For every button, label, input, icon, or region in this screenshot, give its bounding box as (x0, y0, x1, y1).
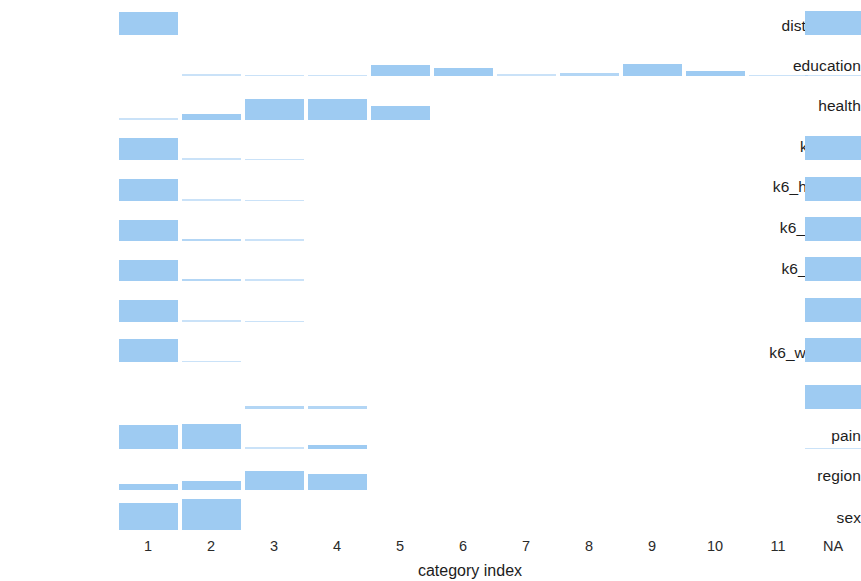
x-tick-label-11: 11 (770, 539, 785, 554)
x-tick-label-3: 3 (270, 539, 278, 554)
category-index-plot: distress_k6educationhealthk6_effortk6_ho… (0, 0, 861, 581)
x-tick-label-4: 4 (333, 539, 341, 554)
x-tick-label-10: 10 (707, 539, 723, 554)
x-axis-title: category index (418, 563, 522, 579)
x-tick-label-7: 7 (522, 539, 530, 554)
x-tick-label-1: 1 (144, 539, 152, 554)
x-tick-label-5: 5 (396, 539, 404, 554)
x-tick-label-na: NA (823, 539, 843, 554)
x-tick-label-2: 2 (207, 539, 215, 554)
x-tick-label-6: 6 (459, 539, 467, 554)
x-tick-label-9: 9 (648, 539, 656, 554)
x-tick-label-8: 8 (585, 539, 593, 554)
x-axis-tick-layer: 1234567891011NA (0, 0, 861, 581)
